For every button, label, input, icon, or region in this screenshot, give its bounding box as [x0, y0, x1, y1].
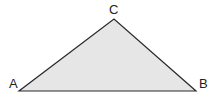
vertex-label-b: B	[199, 76, 208, 91]
triangle-abc	[19, 19, 196, 91]
vertex-label-a: A	[9, 76, 18, 91]
triangle-diagram: A B C	[0, 0, 220, 99]
vertex-label-c: C	[109, 2, 118, 17]
